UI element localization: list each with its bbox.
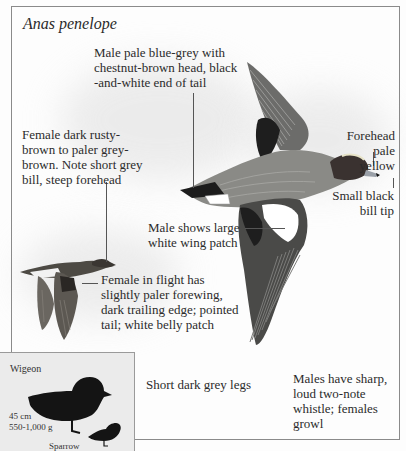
leader-line-bill-tip bbox=[393, 178, 394, 188]
leader-line-female-flight bbox=[82, 283, 98, 284]
inset-weight: 550-1,000 g bbox=[9, 422, 53, 433]
size-comparison-inset: Wigeon 45 cm 550-1,000 g Sparrow bbox=[0, 352, 135, 451]
leader-line-female-plumage bbox=[106, 182, 107, 262]
annotation-wing-patch: Male shows large white wing patch bbox=[148, 220, 239, 250]
annotation-legs: Short dark grey legs bbox=[146, 377, 251, 392]
annotation-forehead: Forehead pale yellow bbox=[335, 128, 395, 173]
leader-line-male-plumage bbox=[193, 93, 194, 188]
sparrow-silhouette bbox=[0, 353, 135, 451]
leader-line-wing-patch bbox=[245, 228, 285, 229]
inset-length: 45 cm bbox=[9, 411, 31, 422]
annotation-bill-tip: Small black bill tip bbox=[322, 188, 394, 218]
field-guide-page: Anas penelope bbox=[0, 0, 406, 451]
inset-reference-label: Sparrow bbox=[49, 441, 80, 451]
annotation-female-flight: Female in flight has slightly paler fore… bbox=[101, 272, 239, 332]
annotation-female-plumage: Female dark rusty- brown to paler grey- … bbox=[22, 127, 143, 187]
annotation-call: Males have sharp, loud two-note whistle;… bbox=[293, 371, 387, 431]
annotation-male-plumage: Male pale blue-grey with chestnut-brown … bbox=[94, 45, 237, 90]
